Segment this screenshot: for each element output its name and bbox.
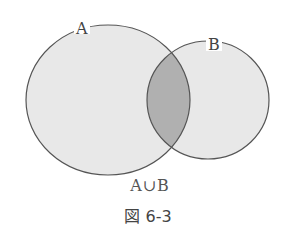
union-label: A∪B [0, 176, 287, 195]
set-a-label: A [75, 19, 88, 38]
set-b-label: B [208, 35, 220, 54]
figure-caption: 図 6-3 [0, 203, 287, 227]
venn-diagram: A B [0, 0, 287, 232]
